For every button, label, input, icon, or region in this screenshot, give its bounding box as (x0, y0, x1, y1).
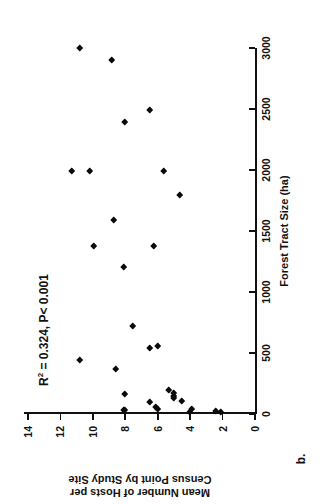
data-point (146, 106, 154, 114)
panel-label: b. (294, 454, 308, 465)
x-tick-label: 2000 (260, 158, 272, 181)
data-point (121, 390, 129, 398)
x-tick-mark (249, 47, 255, 49)
y-tick-mark (124, 414, 126, 420)
y-axis-title: Mean Number of Hosts per Census Point by… (65, 473, 215, 498)
data-point (160, 167, 168, 175)
data-point (76, 357, 84, 365)
r-squared-exponent: 2 (36, 373, 45, 377)
y-tick-mark (157, 414, 159, 420)
y-tick-mark (254, 414, 256, 420)
figure-panel: 050010001500200025003000 02468101214 For… (0, 0, 332, 504)
data-point (177, 191, 185, 199)
data-point (178, 397, 186, 405)
x-tick-mark (249, 230, 255, 232)
y-tick-label: 12 (54, 426, 66, 438)
data-point (68, 167, 76, 175)
y-tick-label: 8 (119, 426, 131, 432)
x-tick-label: 1000 (260, 280, 272, 303)
x-tick-mark (249, 291, 255, 293)
y-tick-label: 10 (87, 426, 99, 438)
y-tick-mark (92, 414, 94, 420)
x-tick-label: 500 (260, 344, 272, 362)
y-tick-label: 2 (217, 426, 229, 432)
x-axis-title: Forest Tract Size (ha) (278, 175, 290, 286)
data-point (91, 242, 99, 250)
statistics-annotation: R2 = 0.324, P< 0.001 (36, 274, 51, 386)
y-tick-label: 14 (22, 426, 34, 438)
x-axis-line (255, 48, 257, 414)
data-point (86, 167, 94, 175)
data-point (217, 408, 225, 416)
y-tick-mark (222, 414, 224, 420)
x-tick-mark (249, 108, 255, 110)
data-point (110, 216, 118, 224)
y-tick-label: 4 (184, 426, 196, 432)
x-tick-label: 2500 (260, 97, 272, 120)
data-point (146, 344, 154, 352)
r-squared-prefix: R (37, 377, 51, 386)
data-point (121, 119, 129, 127)
x-tick-mark (249, 352, 255, 354)
y-tick-label: 6 (152, 426, 164, 432)
data-point (151, 242, 159, 250)
rotated-chart-wrapper: 050010001500200025003000 02468101214 For… (0, 0, 332, 504)
r-squared-value-text: = 0.324, P< 0.001 (37, 274, 51, 373)
y-tick-mark (60, 414, 62, 420)
data-point (130, 322, 138, 330)
x-tick-label: 0 (260, 411, 272, 417)
data-point (120, 263, 128, 271)
data-point (109, 56, 117, 64)
x-tick-label: 1500 (260, 219, 272, 242)
x-tick-mark (249, 169, 255, 171)
plot-area: 050010001500200025003000 02468101214 For… (0, 0, 332, 504)
y-tick-mark (27, 414, 29, 420)
data-point (154, 342, 162, 350)
data-point (76, 44, 84, 52)
y-tick-label: 0 (249, 426, 261, 432)
data-point (112, 365, 120, 373)
x-tick-label: 3000 (260, 36, 272, 59)
